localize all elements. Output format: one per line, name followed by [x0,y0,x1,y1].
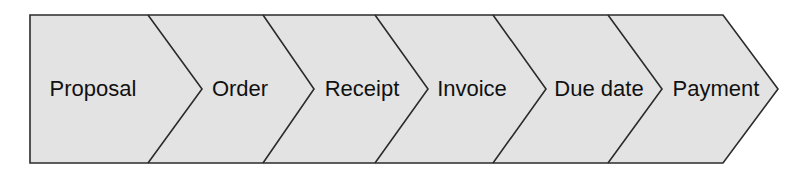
stage-label-payment: Payment [673,78,760,100]
stage-label-order: Order [212,78,268,100]
process-flow-diagram: sectionsontniteriurunquantitecertainenoc… [0,0,808,174]
stage-label-invoice: Invoice [437,78,507,100]
stage-label-due-date: Due date [554,78,643,100]
stage-label-receipt: Receipt [325,78,400,100]
flow-outer-arrow [30,15,778,163]
stage-label-proposal: Proposal [50,78,137,100]
